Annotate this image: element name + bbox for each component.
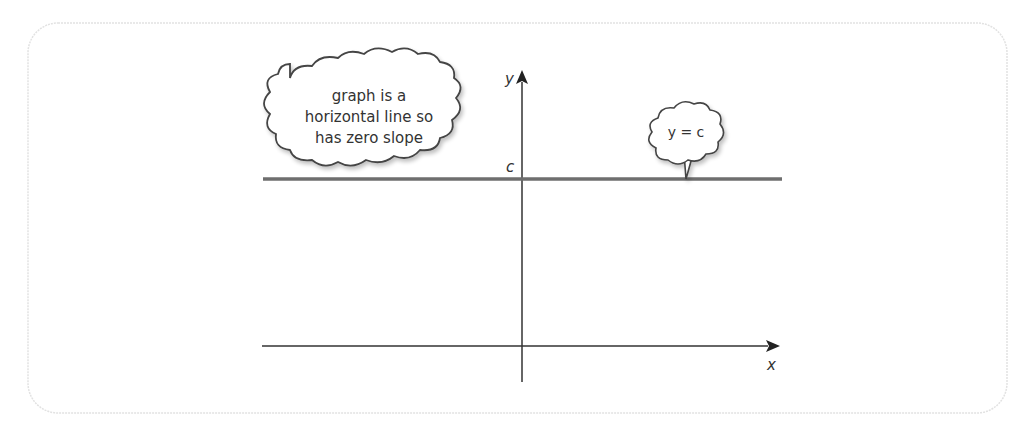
y-axis-arrow-icon <box>516 70 528 84</box>
cloud-shape-icon <box>264 48 461 165</box>
equation-callout <box>649 102 724 179</box>
x-axis <box>262 340 780 352</box>
diagram-canvas: x y c graph is a horizontal line so has … <box>0 0 1035 433</box>
x-axis-arrow-icon <box>766 340 780 352</box>
callout-line-1: graph is a <box>332 87 407 105</box>
y-axis <box>516 70 528 382</box>
y-axis-label: y <box>504 70 515 88</box>
callout-line-3: has zero slope <box>315 129 423 147</box>
callout-line-2: horizontal line so <box>305 108 433 126</box>
x-axis-label: x <box>766 356 776 374</box>
equation-label: y = c <box>668 124 705 140</box>
y-intercept-label: c <box>506 158 515 176</box>
zero-slope-callout <box>264 48 461 165</box>
